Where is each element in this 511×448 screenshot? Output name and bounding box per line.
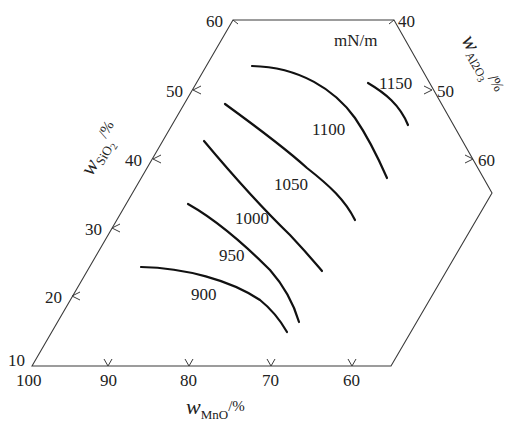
mno-axis-ticks [104,359,356,366]
sio2-tick-30: 30 [85,220,102,239]
ternary-diagram: 60 50 40 30 20 10 40 50 60 100 90 80 70 … [0,0,511,448]
contour-label-950: 950 [219,246,245,265]
al2o3-tick-40: 40 [398,12,415,31]
sio2-tick-40: 40 [125,151,142,170]
al2o3-tick-60: 60 [478,151,495,170]
mno-tick-90: 90 [100,371,117,390]
mno-tick-100: 100 [16,371,42,390]
sio2-tick-20: 20 [45,288,62,307]
diagram-boundary [32,20,492,366]
mno-tick-60: 60 [343,371,360,390]
svg-text:wMnO/%: wMnO/% [186,394,245,422]
contour-label-1050: 1050 [274,175,308,194]
sio2-tick-50: 50 [166,82,183,101]
contour-label-900: 900 [191,285,217,304]
contour-label-1100: 1100 [312,120,345,139]
sio2-tick-10: 10 [8,351,25,370]
sio2-axis-title: wSiO2/% [75,118,128,182]
mno-axis-title: wMnO/% [186,394,245,422]
contour-label-1000: 1000 [235,209,269,228]
sio2-tick-60: 60 [206,12,223,31]
svg-text:wSiO2/%: wSiO2/% [75,118,128,182]
unit-label: mN/m [334,31,377,50]
al2o3-tick-50: 50 [437,82,454,101]
mno-tick-70: 70 [262,371,279,390]
mno-tick-80: 80 [180,371,197,390]
al2o3-axis-title: wAl2O3/% [454,30,510,99]
svg-text:wAl2O3/%: wAl2O3/% [454,30,510,99]
contour-label-1150: 1150 [379,74,412,93]
